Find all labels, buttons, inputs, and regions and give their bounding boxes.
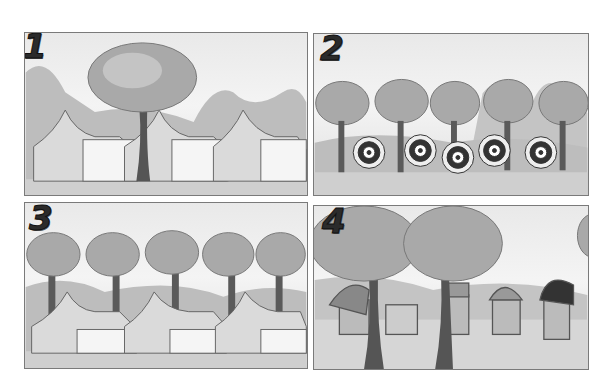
comic-panel-4: 4 — [313, 205, 589, 370]
panel-number-1: 1 — [24, 32, 47, 63]
panel-number-4: 4 — [322, 205, 346, 238]
comic-panel-3: 3 — [24, 202, 308, 369]
panel-number-2: 2 — [320, 33, 344, 65]
panel-3-illustration — [25, 203, 307, 368]
panel-number-3: 3 — [29, 202, 53, 235]
comic-panel-1: 1 — [24, 32, 308, 196]
comic-panel-2: 2 — [313, 33, 589, 196]
panel-4-illustration — [314, 206, 588, 369]
panel-2-illustration — [314, 34, 588, 195]
panel-1-illustration — [25, 33, 307, 195]
